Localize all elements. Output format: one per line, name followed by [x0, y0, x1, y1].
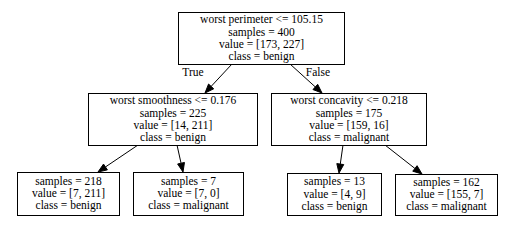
edge-line [385, 145, 415, 168]
arrowhead-icon [337, 164, 344, 173]
edge-line [105, 145, 138, 167]
edge-line [177, 145, 181, 163]
node-samples: samples = 400 [228, 26, 295, 39]
edge-left-to-left-left [98, 145, 138, 172]
node-split-condition: worst concavity <= 0.218 [290, 94, 408, 107]
node-value: value = [14, 211] [134, 119, 213, 132]
node-class: class = benign [229, 50, 295, 63]
node-samples: samples = 13 [304, 175, 365, 188]
node-samples: samples = 175 [316, 107, 383, 120]
node-samples: samples = 162 [413, 176, 480, 189]
node-value: value = [173, 227] [219, 38, 304, 51]
arrowhead-icon [413, 166, 422, 174]
tree-node-left-right: samples = 7value = [7, 0]class = maligna… [134, 173, 244, 216]
node-value: value = [159, 16] [309, 119, 388, 132]
tree-node-right-right: samples = 162value = [155, 7]class = mal… [396, 175, 498, 216]
node-class: class = malignant [406, 200, 487, 213]
edge-left-to-left-right [177, 145, 184, 172]
decision-tree-diagram: TrueFalse worst perimeter <= 105.15sampl… [0, 0, 521, 227]
node-class: class = malignant [148, 199, 229, 212]
edge-label-true: True [182, 66, 203, 78]
node-samples: samples = 7 [161, 175, 216, 188]
node-class: class = benign [140, 131, 206, 144]
node-samples: samples = 225 [140, 107, 207, 120]
node-class: class = benign [36, 199, 102, 212]
tree-node-right-left: samples = 13value = [4, 9]class = benign [288, 174, 382, 216]
node-value: value = [4, 9] [303, 188, 365, 201]
node-split-condition: worst smoothness <= 0.176 [110, 94, 237, 106]
tree-node-root: worst perimeter <= 105.15samples = 400va… [179, 13, 345, 65]
edge-right-to-right-right [385, 145, 422, 174]
edge-root-to-left: True [182, 64, 232, 93]
tree-node-left-left: samples = 218value = [7, 211]class = ben… [18, 173, 120, 216]
node-class: class = benign [302, 200, 368, 213]
node-value: value = [7, 211] [32, 187, 105, 200]
node-value: value = [155, 7] [410, 188, 484, 201]
edge-line [340, 145, 343, 164]
edge-root-to-right: False [290, 64, 330, 93]
tree-node-left: worst smoothness <= 0.176samples = 225va… [89, 94, 258, 146]
edge-right-to-right-left [337, 145, 344, 173]
node-samples: samples = 218 [35, 175, 102, 188]
node-value: value = [7, 0] [157, 187, 219, 200]
tree-node-right: worst concavity <= 0.218samples = 175val… [272, 94, 427, 146]
edge-line [211, 64, 232, 86]
node-split-condition: worst perimeter <= 105.15 [200, 13, 323, 26]
node-class: class = malignant [309, 131, 390, 144]
edge-label-false: False [306, 66, 330, 78]
arrowhead-icon [178, 162, 185, 172]
arrowhead-icon [98, 164, 107, 172]
